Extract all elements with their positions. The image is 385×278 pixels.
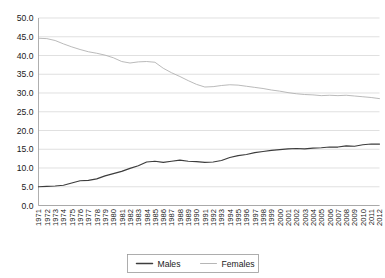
- series-line-males: [39, 144, 380, 187]
- y-tick-label: 50.0: [17, 13, 34, 23]
- series-line-females: [39, 38, 380, 98]
- y-tick-label: 0.0: [22, 201, 34, 211]
- y-tick-label: 35.0: [17, 69, 34, 79]
- y-tick-label: 5.0: [22, 182, 34, 192]
- y-tick-label: 15.0: [17, 144, 34, 154]
- y-tick-label: 20.0: [17, 126, 34, 136]
- x-tick-label: 2012: [375, 209, 384, 226]
- chart-container: 0.05.010.015.020.025.030.035.040.045.050…: [0, 0, 385, 278]
- y-tick-label: 30.0: [17, 88, 34, 98]
- gridlines: [39, 18, 380, 206]
- y-tick-label: 40.0: [17, 51, 34, 61]
- y-tick-label: 45.0: [17, 32, 34, 42]
- chart-legend[interactable]: MalesFemales: [128, 255, 259, 273]
- legend-label-females[interactable]: Females: [222, 259, 255, 269]
- y-tick-label: 10.0: [17, 163, 34, 173]
- x-axis-tick-labels: 1971197219731974197519761977197819791980…: [34, 209, 384, 226]
- y-axis-tick-labels: 0.05.010.015.020.025.030.035.040.045.050…: [17, 13, 34, 211]
- legend-label-males[interactable]: Males: [158, 259, 181, 269]
- line-chart: 0.05.010.015.020.025.030.035.040.045.050…: [0, 0, 385, 278]
- data-series: [39, 38, 380, 187]
- y-tick-label: 25.0: [17, 107, 34, 117]
